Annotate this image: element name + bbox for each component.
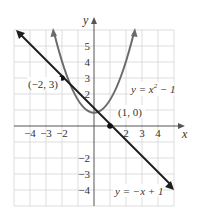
svg-text:−2: −2 [56, 127, 68, 139]
svg-text:−4: −4 [24, 127, 36, 139]
line-equation-label: y = −x + 1 [114, 185, 164, 197]
svg-text:4: 4 [155, 127, 161, 139]
y-axis-label: y [82, 13, 89, 27]
line-curve [20, 34, 170, 184]
intersection-point-2 [107, 123, 113, 129]
point-label-1: (−2, 3) [28, 78, 58, 91]
svg-text:3: 3 [139, 127, 145, 139]
parabola-right-arrow-icon [131, 28, 138, 37]
svg-text:4: 4 [85, 56, 91, 68]
x-tick-labels: −4 −3 −2 2 3 4 [24, 127, 161, 139]
svg-text:−3: −3 [78, 168, 90, 180]
point-label-2: (1, 0) [118, 106, 142, 119]
svg-text:5: 5 [85, 40, 91, 52]
svg-text:−3: −3 [40, 127, 52, 139]
x-axis-label: x [181, 127, 188, 141]
y-axis-arrow-icon [91, 17, 97, 24]
svg-text:−2: −2 [78, 152, 90, 164]
parabola-left-arrow-icon [51, 28, 58, 37]
graph-plot: x y −4 −3 −2 2 3 4 5 4 3 2 −2 −3 −4 (−2,… [0, 0, 198, 211]
svg-text:−4: −4 [78, 184, 90, 196]
svg-text:3: 3 [85, 72, 91, 84]
y-tick-labels: 5 4 3 2 −2 −3 −4 [78, 40, 90, 196]
parabola-equation-label: y = x2 − 1 [130, 82, 176, 95]
axes [14, 22, 180, 206]
